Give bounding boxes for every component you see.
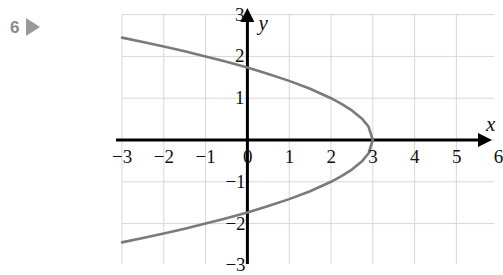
x-tick-label: 4	[410, 147, 420, 166]
x-tick-label: 3	[368, 147, 378, 166]
y-tick-label: −3	[225, 255, 245, 274]
x-tick-label: 6	[494, 147, 503, 166]
x-tick-label: −1	[196, 147, 216, 166]
axes	[116, 8, 492, 264]
y-axis-label: y	[258, 13, 267, 34]
y-tick-label: −2	[225, 214, 245, 233]
y-tick-label: −1	[225, 172, 245, 191]
x-tick-label: 1	[285, 147, 295, 166]
y-tick-label: 2	[235, 46, 245, 65]
y-tick-label: 3	[235, 5, 245, 24]
x-tick-label: 5	[452, 147, 462, 166]
y-tick-label: 1	[235, 88, 245, 107]
x-tick-label: 0	[243, 147, 253, 166]
x-tick-label: −3	[112, 147, 132, 166]
x-tick-label: 2	[327, 147, 337, 166]
x-axis-label: x	[486, 114, 495, 135]
x-tick-label: −2	[154, 147, 174, 166]
